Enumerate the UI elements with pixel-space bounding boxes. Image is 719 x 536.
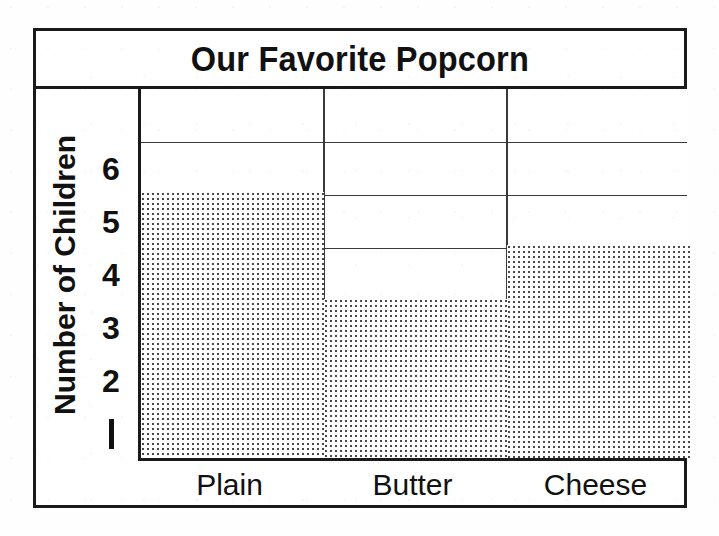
y-tick-label-6: 6 <box>86 142 136 195</box>
x-category-label-plain: Plain <box>138 461 321 508</box>
title-band: Our Favorite Popcorn <box>36 31 684 89</box>
plot-area <box>138 89 687 461</box>
y-tick-label-2: 2 <box>86 355 136 408</box>
y-axis-title-label: Number of Children <box>50 135 80 415</box>
bar-cheese <box>507 245 690 458</box>
bar-plain <box>141 192 324 458</box>
bar-butter <box>324 299 507 458</box>
y-tick-label-1 <box>86 408 136 461</box>
chart-body: Number of Children 65432 PlainButterChee… <box>36 89 684 505</box>
y-tick-label-5: 5 <box>86 195 136 248</box>
y-tick-label-3: 3 <box>86 302 136 355</box>
x-category-label-cheese: Cheese <box>504 461 687 508</box>
grid-line-horizontal <box>141 142 687 143</box>
y-tick-label-4: 4 <box>86 248 136 301</box>
y-axis-tick-labels: 65432 <box>86 89 136 461</box>
y-tick-glyph-one <box>109 419 114 449</box>
y-axis-title: Number of Children <box>44 89 86 461</box>
worksheet-page: Our Favorite Popcorn Number of Children … <box>0 0 719 536</box>
chart-frame: Our Favorite Popcorn Number of Children … <box>33 28 687 508</box>
chart-title: Our Favorite Popcorn <box>191 41 529 76</box>
x-axis-category-labels: PlainButterCheese <box>138 461 687 508</box>
x-category-label-butter: Butter <box>321 461 504 508</box>
